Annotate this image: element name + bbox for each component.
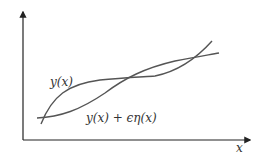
- diagram-canvas: y(x) y(x) + ϵη(x) x: [0, 0, 260, 159]
- x-axis-label: x: [236, 141, 243, 155]
- y-curve-label: y(x): [49, 75, 73, 89]
- perturbed-curve-label: y(x) + ϵη(x): [85, 111, 157, 125]
